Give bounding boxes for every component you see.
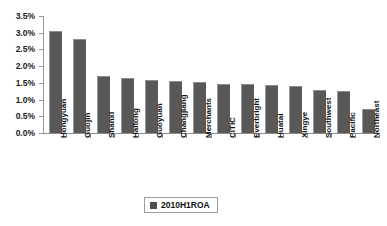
x-axis-category-labels: HongyuanGuojinShanxiHaitongGuoyuanChangj…	[43, 138, 380, 190]
x-label-slot: CITIC	[212, 138, 236, 190]
x-axis-label-xingye: Xingye	[300, 112, 309, 138]
x-label-slot: Huatai	[260, 138, 284, 190]
x-axis-label-hongyuan: Hongyuan	[59, 99, 68, 138]
x-label-slot: Haitong	[115, 138, 139, 190]
x-label-slot: Everbright	[236, 138, 260, 190]
y-tick-label: 2.5%	[16, 44, 35, 54]
x-axis-label-shanxi: Shanxi	[107, 112, 116, 138]
legend-label: 2010H1ROA	[161, 200, 210, 210]
x-axis-label-changjiang: Changjiang	[179, 94, 188, 138]
x-axis-label-guojin: Guojin	[83, 113, 92, 138]
y-tick-label: 3.5%	[16, 11, 35, 21]
x-label-slot: Merchants	[187, 138, 211, 190]
x-axis-label-pacific: Pacific	[348, 112, 357, 138]
x-axis-label-northeast: Northeast	[372, 101, 381, 138]
y-tick-label: 1.0%	[16, 95, 35, 105]
x-label-slot: Xingye	[284, 138, 308, 190]
x-label-slot: Northeast	[356, 138, 380, 190]
x-axis-label-citic: CITIC	[228, 117, 237, 138]
y-tick-label: 0.0%	[16, 128, 35, 138]
x-axis-label-southwest: Southwest	[324, 98, 333, 138]
y-axis-tick-labels: 3.5% 3.0% 2.5% 2.0% 1.5% 1.0% 0.5% 0.0%	[0, 16, 40, 133]
y-tick-label: 3.0%	[16, 28, 35, 38]
x-label-slot: Pacific	[332, 138, 356, 190]
x-axis-label-everbright: Everbright	[252, 98, 261, 138]
chart-legend: 2010H1ROA	[144, 197, 218, 213]
bar-slot	[212, 16, 236, 133]
x-axis-label-haitong: Haitong	[131, 108, 140, 138]
x-label-slot: Guojin	[67, 138, 91, 190]
legend-swatch-icon	[150, 202, 157, 209]
x-label-slot: Guoyuan	[139, 138, 163, 190]
y-tick-label: 1.5%	[16, 78, 35, 88]
y-tick-label: 0.5%	[16, 111, 35, 121]
y-tick-label: 2.0%	[16, 61, 35, 71]
x-label-slot: Changjiang	[163, 138, 187, 190]
bar-chart: 3.5% 3.0% 2.5% 2.0% 1.5% 1.0% 0.5% 0.0% …	[0, 0, 387, 226]
x-axis-label-guoyuan: Guoyuan	[155, 103, 164, 138]
x-label-slot: Shanxi	[91, 138, 115, 190]
x-label-slot: Hongyuan	[43, 138, 67, 190]
x-axis-label-huatai: Huatai	[276, 114, 285, 138]
x-axis-label-merchants: Merchants	[204, 98, 213, 138]
x-label-slot: Southwest	[308, 138, 332, 190]
